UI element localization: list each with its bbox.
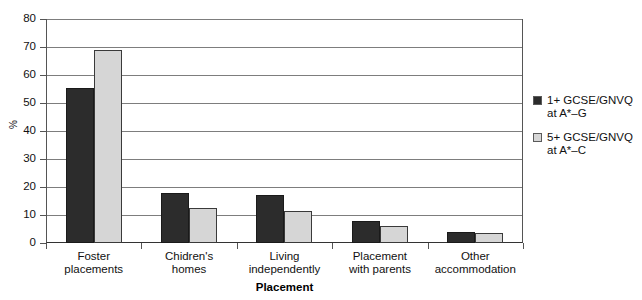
x-tick-label-line: independently: [237, 263, 332, 276]
bar: [256, 195, 284, 243]
bars-layer: [46, 19, 523, 243]
x-tick-label: Placementwith parents: [332, 250, 427, 275]
y-tick-label: 30: [14, 153, 36, 164]
bar: [380, 226, 408, 243]
bar: [161, 193, 189, 243]
x-tick-label-line: Chidren's: [141, 250, 236, 263]
bar: [352, 221, 380, 243]
x-tick-label: Otheraccommodation: [428, 250, 523, 275]
x-tick-mark: [428, 243, 429, 249]
x-tick-label-line: homes: [141, 263, 236, 276]
legend-label-line: at A*–G: [547, 107, 639, 120]
bar-chart-figure: % 01020304050607080 FosterplacementsChid…: [0, 0, 642, 300]
legend-label-line: 1+ GCSE/GNVQ: [547, 94, 639, 107]
legend-label-line: at A*–C: [547, 144, 639, 157]
x-tick-label-line: Placement: [332, 250, 427, 263]
legend-swatch-icon: [533, 133, 542, 142]
x-tick-label-line: Living: [237, 250, 332, 263]
y-tick-label: 60: [14, 69, 36, 80]
legend-swatch-icon: [533, 96, 542, 105]
x-tick-mark: [141, 243, 142, 249]
legend-entry[interactable]: 1+ GCSE/GNVQat A*–G: [533, 94, 639, 120]
y-tick-label: 80: [14, 13, 36, 24]
bar: [189, 208, 217, 243]
x-tick-label-line: accommodation: [428, 263, 523, 276]
y-tick-label: 0: [14, 237, 36, 248]
x-tick-mark: [523, 243, 524, 249]
bar-group: [428, 19, 523, 243]
bar-group: [141, 19, 236, 243]
bar: [475, 233, 503, 243]
x-tick-mark: [46, 243, 47, 249]
x-tick-label-line: with parents: [332, 263, 427, 276]
bar: [94, 50, 122, 243]
x-tick-label-line: Other: [428, 250, 523, 263]
bar: [447, 232, 475, 243]
x-tick-label: Chidren'shomes: [141, 250, 236, 275]
y-tick-label: 20: [14, 181, 36, 192]
bar-group: [46, 19, 141, 243]
y-tick-label: 10: [14, 209, 36, 220]
legend: 1+ GCSE/GNVQat A*–G5+ GCSE/GNVQat A*–C: [533, 94, 639, 168]
x-tick-label: Livingindependently: [237, 250, 332, 275]
x-tick-label-line: placements: [46, 263, 141, 276]
bar: [284, 211, 312, 243]
x-tick-label: Fosterplacements: [46, 250, 141, 275]
bar: [66, 88, 94, 243]
bar-group: [332, 19, 427, 243]
legend-label-line: 5+ GCSE/GNVQ: [547, 131, 639, 144]
x-tick-mark: [237, 243, 238, 249]
x-tick-label-line: Foster: [46, 250, 141, 263]
x-axis-title: Placement: [46, 281, 523, 293]
y-tick-label: 40: [14, 125, 36, 136]
x-tick-mark: [332, 243, 333, 249]
bar-group: [237, 19, 332, 243]
y-tick-label: 50: [14, 97, 36, 108]
y-tick-label: 70: [14, 41, 36, 52]
legend-entry[interactable]: 5+ GCSE/GNVQat A*–C: [533, 131, 639, 157]
